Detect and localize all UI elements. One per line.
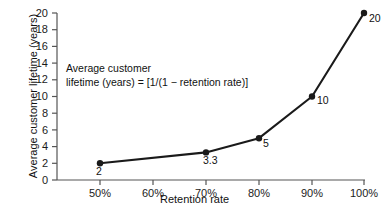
annotation-line-1: Average customer — [66, 62, 151, 75]
data-point-marker — [361, 10, 367, 16]
x-tick-label-90: 90% — [290, 188, 334, 199]
annotation-line-2: lifetime (years) = [1/(1 − retention rat… — [66, 76, 248, 89]
x-axis-title: Retention rate — [160, 193, 229, 205]
data-point-marker — [309, 93, 315, 99]
y-axis-ticks — [52, 13, 57, 180]
x-tick-label-100: 100% — [342, 188, 386, 199]
data-point-label-2: 2 — [96, 166, 102, 177]
data-point-marker — [256, 135, 262, 141]
data-point-label-5: 5 — [263, 138, 269, 149]
data-point-label-10: 10 — [317, 95, 329, 106]
data-point-label-20: 20 — [369, 13, 381, 24]
x-tick-label-50: 50% — [78, 188, 122, 199]
chart-container: 0 2 4 6 8 10 12 14 16 18 20 50% 60% 70% … — [0, 0, 392, 213]
x-axis-ticks — [100, 180, 364, 185]
plot-area — [0, 0, 392, 213]
x-tick-label-80: 80% — [237, 188, 281, 199]
data-point-label-3-3: 3.3 — [203, 155, 218, 166]
y-axis-title: Average customer lifetime (years) — [27, 6, 39, 186]
